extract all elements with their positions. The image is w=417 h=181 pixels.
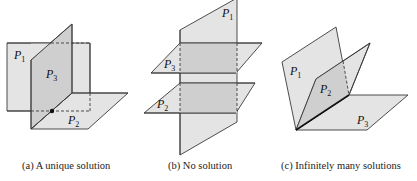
caption-b: (b) No solution — [168, 160, 232, 171]
caption-a: (a) A unique solution — [22, 160, 110, 171]
three-planes-figure: P1 P3 P2 P1 P3 P2 P1 P2 — [0, 0, 417, 181]
plane-p1-b — [180, 0, 237, 155]
panel-a-diagram: P1 P3 P2 — [7, 24, 128, 129]
panel-b-diagram: P1 P3 P2 — [144, 0, 262, 155]
caption-c: (c) Infinitely many solutions — [281, 160, 401, 171]
intersection-point — [50, 109, 54, 113]
panel-c-diagram: P1 P2 P3 — [282, 27, 408, 130]
